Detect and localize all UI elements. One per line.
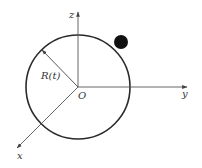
x-axis-label: x bbox=[17, 150, 23, 161]
y-axis-label: y bbox=[181, 88, 188, 99]
radius-arrow bbox=[42, 50, 78, 87]
particle-ball bbox=[114, 35, 128, 49]
sphere-diagram: z y x O R(t) bbox=[0, 0, 202, 168]
radius-label: R(t) bbox=[40, 70, 60, 81]
z-axis-label: z bbox=[68, 9, 75, 20]
origin-label: O bbox=[78, 90, 86, 101]
